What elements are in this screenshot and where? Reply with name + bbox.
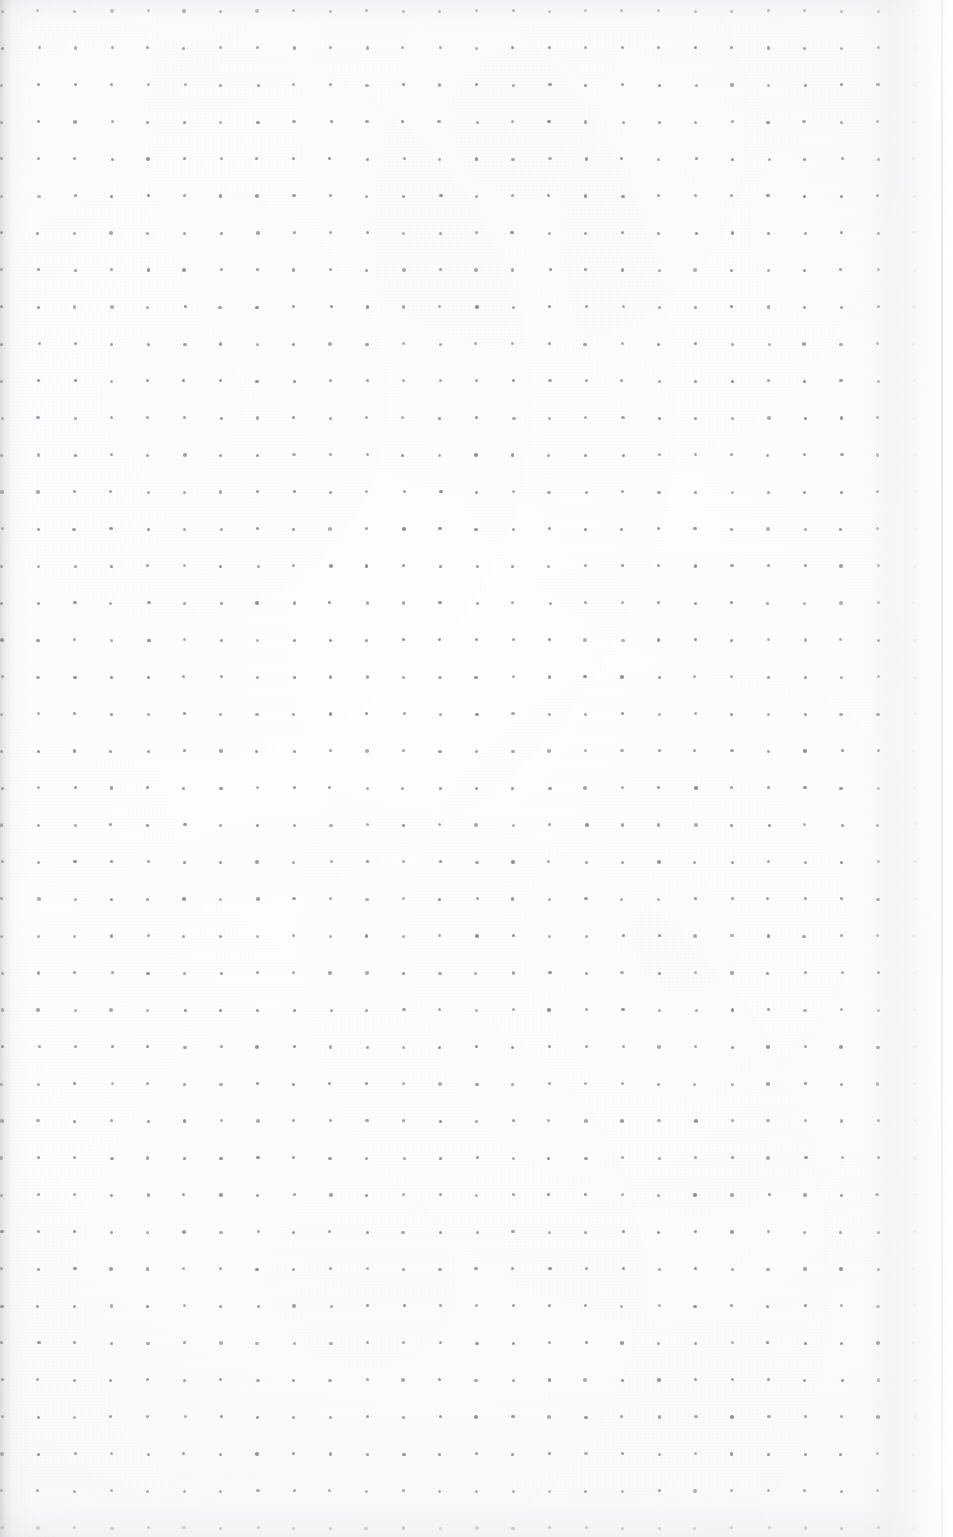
grid-dot xyxy=(475,1120,478,1123)
grid-dot xyxy=(293,750,296,753)
grid-dot xyxy=(876,490,879,493)
grid-dot xyxy=(0,268,3,271)
grid-dot xyxy=(839,638,842,641)
grid-dot xyxy=(877,1156,880,1159)
grid-dot xyxy=(620,379,623,382)
grid-dot xyxy=(731,343,734,346)
grid-dot xyxy=(183,972,186,975)
grid-dot xyxy=(767,750,770,753)
grid-dot xyxy=(365,527,368,530)
paper-tint-layer xyxy=(0,0,953,1537)
grid-dot xyxy=(328,601,331,604)
grid-dot xyxy=(621,823,625,827)
grid-dot xyxy=(73,157,76,160)
grid-dot xyxy=(182,1526,186,1530)
grid-dot xyxy=(804,1156,808,1160)
grid-dot xyxy=(147,639,151,643)
grid-dot xyxy=(913,84,917,88)
grid-dot xyxy=(73,1526,77,1530)
grid-dot xyxy=(658,1489,661,1492)
grid-dot xyxy=(328,1379,332,1383)
grid-dot xyxy=(476,1156,479,1159)
grid-dot xyxy=(658,972,661,975)
grid-dot xyxy=(182,787,185,790)
grid-dot xyxy=(621,1008,625,1012)
grid-dot xyxy=(328,1082,331,1085)
grid-dot xyxy=(730,1193,734,1197)
grid-dot xyxy=(183,1083,186,1086)
grid-dot xyxy=(146,898,149,901)
grid-dot xyxy=(36,1489,39,1492)
grid-dot xyxy=(0,1305,4,1309)
grid-dot xyxy=(401,416,404,419)
grid-dot xyxy=(257,1305,260,1308)
grid-dot xyxy=(366,379,369,382)
grid-dot xyxy=(183,1341,186,1344)
grid-dot xyxy=(0,602,3,605)
grid-dot xyxy=(658,749,661,752)
grid-dot xyxy=(366,453,369,456)
grid-dot xyxy=(766,1156,770,1160)
grid-dot xyxy=(512,1119,515,1122)
grid-dot xyxy=(876,342,879,345)
grid-dot xyxy=(620,675,624,679)
grid-dot xyxy=(620,9,623,12)
grid-dot xyxy=(621,861,624,864)
grid-dot xyxy=(73,712,76,715)
grid-dot xyxy=(183,416,186,419)
grid-dot xyxy=(438,676,442,680)
grid-dot xyxy=(255,380,259,384)
grid-dot xyxy=(37,195,41,199)
grid-dot xyxy=(584,1490,587,1493)
grid-dot xyxy=(255,601,259,605)
grid-dot xyxy=(147,491,150,494)
grid-dot xyxy=(474,1379,478,1383)
grid-dot xyxy=(37,712,40,715)
grid-dot xyxy=(37,565,40,568)
grid-dot xyxy=(438,934,441,937)
grid-dot xyxy=(877,305,881,309)
grid-dot xyxy=(876,83,880,87)
grid-dot xyxy=(877,1378,881,1382)
grid-dot xyxy=(0,490,4,494)
grid-dot xyxy=(219,861,222,864)
grid-dot xyxy=(255,157,258,160)
grid-dot xyxy=(766,1082,770,1086)
grid-dot xyxy=(256,454,259,457)
grid-dot xyxy=(292,1231,295,1234)
grid-dot xyxy=(875,1193,879,1197)
grid-dot xyxy=(876,898,880,902)
grid-dot xyxy=(658,453,661,456)
grid-dot xyxy=(402,379,405,382)
grid-dot xyxy=(293,1193,296,1196)
grid-dot xyxy=(768,1193,771,1196)
grid-dot xyxy=(37,1341,41,1345)
grid-dot xyxy=(585,491,588,494)
grid-dot xyxy=(913,195,916,198)
grid-dot xyxy=(438,1453,441,1456)
grid-dot xyxy=(36,1119,40,1123)
grid-dot xyxy=(476,602,479,605)
grid-dot xyxy=(585,1008,588,1011)
grid-dot xyxy=(110,676,113,679)
grid-dot xyxy=(109,490,112,493)
grid-dot xyxy=(439,232,442,235)
grid-dot xyxy=(365,1194,368,1197)
grid-dot xyxy=(512,1157,515,1160)
grid-dot xyxy=(621,195,625,199)
grid-dot xyxy=(73,749,77,753)
grid-dot xyxy=(584,1119,588,1123)
grid-dot xyxy=(731,1268,734,1271)
grid-dot xyxy=(36,1378,39,1381)
grid-dot xyxy=(511,1267,514,1270)
grid-dot xyxy=(877,787,880,790)
grid-dot xyxy=(803,823,806,826)
grid-dot xyxy=(802,935,806,939)
grid-dot xyxy=(804,1342,807,1345)
grid-dot xyxy=(293,676,296,679)
grid-dot xyxy=(912,120,916,124)
grid-dot xyxy=(146,1267,150,1271)
grid-dot xyxy=(620,749,624,753)
grid-dot xyxy=(111,158,114,161)
grid-dot xyxy=(730,601,733,604)
